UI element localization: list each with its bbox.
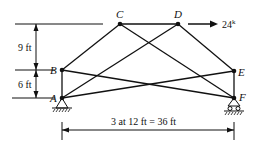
joint-c (118, 22, 123, 27)
node-label-b: B (50, 64, 57, 76)
truss-diagram: C D B A E F 24k 9 ft 6 ft 3 at 12 ft = 3… (0, 0, 257, 155)
dimension-lower-vertical: 6 ft (18, 79, 32, 90)
joint-f (232, 96, 237, 101)
joint-a (60, 96, 65, 101)
load-arrow-icon (210, 21, 218, 28)
node-label-c: C (116, 8, 124, 20)
node-label-a: A (49, 92, 57, 104)
dimension-upper-vertical: 9 ft (18, 42, 32, 53)
joint-b (60, 68, 65, 73)
truss-drawing: C D B A E F 24k 9 ft 6 ft 3 at 12 ft = 3… (0, 0, 257, 155)
dimension-horizontal: 3 at 12 ft = 36 ft (111, 116, 176, 127)
joint-e (232, 69, 237, 74)
load-label: 24k (222, 18, 236, 30)
node-label-f: F (238, 91, 246, 103)
joint-d (176, 22, 181, 27)
node-label-e: E (237, 66, 245, 78)
node-label-d: D (173, 8, 182, 20)
